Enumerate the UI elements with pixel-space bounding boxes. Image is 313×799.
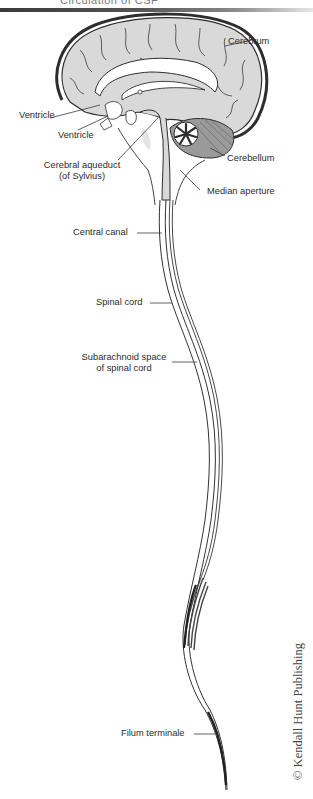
copyright-notice: © Kendall Hunt Publishing — [291, 643, 306, 780]
label-cerebellum: Cerebellum — [227, 153, 275, 164]
spinal-cord-drawing — [159, 200, 227, 790]
label-ventricle-upper: Ventricle — [19, 110, 55, 121]
label-spinal-cord: Spinal cord — [96, 297, 143, 308]
label-cerebral-aqueduct-line1: Cerebral aqueduct — [38, 160, 126, 171]
label-central-canal: Central canal — [73, 227, 128, 238]
label-cerebral-aqueduct-line2: (of Sylvius) — [38, 171, 126, 182]
label-subarachnoid-space: Subarachnoid space of spinal cord — [74, 352, 174, 374]
label-cerebral-aqueduct: Cerebral aqueduct (of Sylvius) — [38, 160, 126, 182]
label-median-aperture: Median aperture — [207, 186, 275, 197]
label-cerebrum: Cerebrum — [228, 36, 269, 47]
cerebellum-drawing — [170, 118, 234, 158]
label-subarachnoid-line2: of spinal cord — [74, 363, 174, 374]
label-ventricle-lower: Ventricle — [58, 130, 94, 141]
label-filum-terminale: Filum terminale — [121, 728, 185, 739]
label-subarachnoid-line1: Subarachnoid space — [74, 352, 174, 363]
